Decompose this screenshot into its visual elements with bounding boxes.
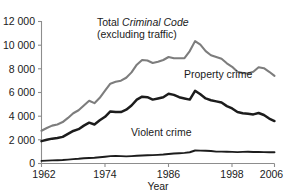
series-label-total-italic: Criminal Code xyxy=(122,16,189,28)
crime-rate-line-chart: 0 2 000 4 000 6 000 8 000 10 000 12 000 … xyxy=(0,0,286,194)
series-label-violent-crime: Violent crime xyxy=(131,126,192,138)
chart-plot-area: 0 2 000 4 000 6 000 8 000 10 000 12 000 … xyxy=(0,0,286,194)
series-label-property-crime: Property crime xyxy=(184,68,252,80)
series-label-total-criminal-code: Total Criminal Code xyxy=(97,16,189,28)
x-tick-label-2006: 2006 xyxy=(260,168,284,180)
y-tick-label-2000: 2 000 xyxy=(9,134,35,146)
y-axis-tick-labels: 0 2 000 4 000 6 000 8 000 10 000 12 000 xyxy=(3,15,35,169)
y-tick-label-12000: 12 000 xyxy=(3,15,35,27)
x-axis-title: Year xyxy=(147,180,169,192)
x-axis-tick-labels: 1962 1974 1986 1998 2006 xyxy=(32,168,283,180)
series-label-total-prefix: Total xyxy=(97,16,122,28)
y-tick-label-6000: 6 000 xyxy=(9,86,35,98)
series-line-total-criminal-code xyxy=(42,41,275,131)
x-tick-label-1986: 1986 xyxy=(157,168,181,180)
y-tick-label-10000: 10 000 xyxy=(3,39,35,51)
series-line-violent-crime xyxy=(42,150,275,160)
x-tick-label-1962: 1962 xyxy=(32,168,56,180)
series-label-total-second-line: (excluding traffic) xyxy=(97,28,177,40)
x-tick-label-1974: 1974 xyxy=(93,168,117,180)
y-tick-label-4000: 4 000 xyxy=(9,110,35,122)
y-tick-label-8000: 8 000 xyxy=(9,63,35,75)
x-tick-label-1998: 1998 xyxy=(220,168,244,180)
